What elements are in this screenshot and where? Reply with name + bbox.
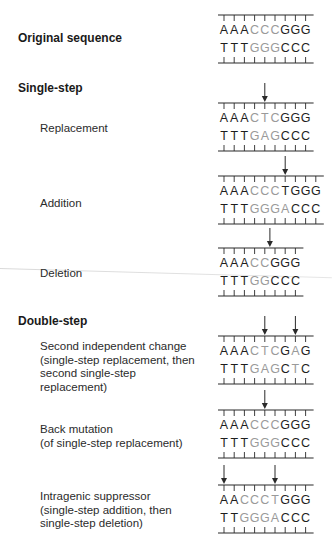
top-base: A: [220, 344, 229, 358]
bottom-base: T: [292, 362, 300, 376]
top-base: G: [301, 184, 311, 198]
bottom-base: G: [270, 41, 280, 55]
bottom-base: C: [281, 129, 290, 143]
top-base: G: [291, 493, 301, 507]
top-base: A: [220, 23, 229, 37]
bottom-base: C: [301, 511, 310, 525]
bottom-base: C: [291, 41, 300, 55]
arrow-head-icon: [292, 329, 298, 335]
bottom-base: T: [230, 129, 238, 143]
bottom-base: A: [271, 511, 280, 525]
bottom-base: G: [260, 274, 270, 288]
top-base: C: [270, 184, 279, 198]
top-base: T: [261, 344, 269, 358]
bottom-base: C: [311, 202, 320, 216]
top-base: A: [220, 418, 229, 432]
bottom-base: T: [220, 511, 228, 525]
top-base: C: [250, 256, 259, 270]
bottom-base: G: [260, 41, 270, 55]
top-base: C: [250, 493, 259, 507]
arrow-head-icon: [262, 329, 268, 335]
top-base: G: [280, 344, 290, 358]
top-base: A: [220, 111, 229, 125]
bottom-base: T: [230, 436, 238, 450]
top-base: G: [291, 256, 301, 270]
bottom-base: T: [220, 362, 228, 376]
top-base: G: [280, 418, 290, 432]
bottom-base: C: [270, 274, 279, 288]
bottom-base: A: [281, 202, 290, 216]
bottom-base: T: [241, 436, 249, 450]
bottom-base: T: [230, 202, 238, 216]
bottom-base: T: [230, 362, 238, 376]
arrow-head-icon: [262, 96, 268, 102]
top-base: G: [301, 344, 311, 358]
bottom-base: G: [250, 362, 260, 376]
top-base: G: [301, 493, 311, 507]
top-base: G: [280, 493, 290, 507]
bottom-base: C: [281, 362, 290, 376]
top-base: A: [230, 111, 239, 125]
top-base: A: [230, 184, 239, 198]
top-base: C: [250, 344, 259, 358]
bottom-base: C: [281, 274, 290, 288]
top-base: C: [260, 23, 269, 37]
bottom-base: T: [220, 202, 228, 216]
top-base: T: [271, 493, 279, 507]
bottom-base: G: [260, 511, 270, 525]
bottom-base: C: [291, 511, 300, 525]
top-base: A: [240, 184, 249, 198]
bottom-base: G: [250, 511, 260, 525]
top-base: C: [270, 418, 279, 432]
bottom-base: C: [301, 41, 310, 55]
top-base: A: [230, 418, 239, 432]
top-base: T: [261, 111, 269, 125]
bottom-base: A: [261, 129, 270, 143]
bottom-base: G: [270, 202, 280, 216]
top-base: G: [301, 418, 311, 432]
top-base: A: [230, 256, 239, 270]
top-base: A: [230, 493, 239, 507]
bottom-base: C: [291, 274, 300, 288]
top-base: G: [280, 111, 290, 125]
top-base: A: [240, 111, 249, 125]
top-base: A: [240, 256, 249, 270]
bottom-base: C: [291, 202, 300, 216]
dna-diagrams: ATATATCGCGCGGCGCGCATATATCGTACGGCGCGCATAT…: [0, 0, 332, 545]
top-base: A: [230, 23, 239, 37]
bottom-base: T: [230, 274, 238, 288]
bottom-base: T: [230, 41, 238, 55]
bottom-base: G: [240, 511, 250, 525]
top-base: C: [270, 23, 279, 37]
top-base: G: [280, 23, 290, 37]
bottom-base: T: [220, 436, 228, 450]
bottom-base: C: [291, 436, 300, 450]
bottom-base: C: [291, 129, 300, 143]
top-base: C: [260, 493, 269, 507]
top-base: A: [220, 493, 229, 507]
top-base: C: [270, 111, 279, 125]
bottom-base: G: [250, 436, 260, 450]
arrow-head-icon: [262, 403, 268, 409]
bottom-base: G: [250, 129, 260, 143]
top-base: A: [220, 184, 229, 198]
top-base: A: [230, 344, 239, 358]
bottom-base: C: [281, 511, 290, 525]
top-base: C: [250, 111, 259, 125]
arrow-head-icon: [272, 478, 278, 484]
bottom-base: G: [250, 41, 260, 55]
top-base: A: [240, 344, 249, 358]
bottom-base: C: [301, 129, 310, 143]
top-base: G: [280, 256, 290, 270]
top-base: T: [281, 184, 289, 198]
top-base: C: [260, 184, 269, 198]
bottom-base: T: [241, 41, 249, 55]
bottom-base: G: [260, 436, 270, 450]
top-base: C: [260, 256, 269, 270]
top-base: G: [301, 111, 311, 125]
bottom-base: C: [301, 202, 310, 216]
bottom-base: T: [241, 274, 249, 288]
bottom-base: T: [230, 511, 238, 525]
top-base: G: [291, 418, 301, 432]
bottom-base: T: [220, 129, 228, 143]
